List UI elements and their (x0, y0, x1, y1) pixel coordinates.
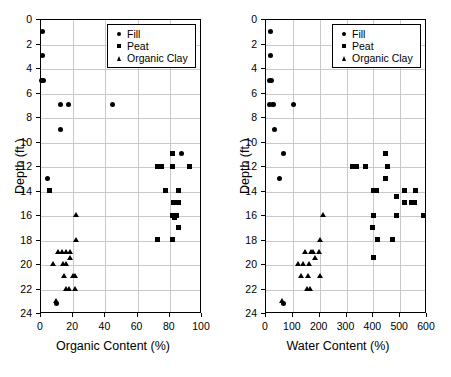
y-axis-tick (36, 44, 40, 45)
gridline-vertical (73, 20, 74, 312)
x-axis-tick (40, 313, 41, 317)
gridline-horizontal (266, 69, 425, 70)
x-axis-tick (137, 313, 138, 317)
square-marker-icon (338, 44, 350, 49)
y-axis-tick (261, 19, 265, 20)
x-axis-tick-label: 100 (181, 321, 221, 332)
y-axis-tick (261, 215, 265, 216)
y-axis-tick (36, 117, 40, 118)
x-axis-tick (426, 313, 427, 317)
y-axis-tick (261, 44, 265, 45)
gridline-horizontal (266, 94, 425, 95)
legend-item-fill[interactable]: Fill (338, 28, 414, 40)
y-axis-tick (261, 264, 265, 265)
legend-item-label: Fill (352, 29, 365, 40)
x-axis-tick (346, 313, 347, 317)
y-axis-tick (36, 240, 40, 241)
y-axis-tick-label: 6 (2, 88, 32, 99)
y-axis-tick (261, 166, 265, 167)
gridline-horizontal (41, 241, 200, 242)
gridline-horizontal (266, 118, 425, 119)
y-axis-tick-label: 22 (227, 284, 257, 295)
legend-item-label: Peat (127, 41, 149, 52)
gridline-horizontal (266, 192, 425, 193)
legend-item-label: Organic Clay (127, 53, 188, 64)
gridline-horizontal (41, 94, 200, 95)
y-axis-tick (36, 215, 40, 216)
triangle-glyph (342, 56, 346, 61)
water-content-vs-depth: 0246810121416182022240100200300400500600… (225, 0, 451, 377)
y-axis-tick-label: 20 (2, 259, 32, 270)
y-axis-tick (36, 166, 40, 167)
gridline-horizontal (266, 290, 425, 291)
y-axis-tick-label: 16 (227, 210, 257, 221)
y-axis-tick (261, 191, 265, 192)
x-axis-tick (319, 313, 320, 317)
y-axis-tick-label: 24 (2, 308, 32, 319)
y-axis-tick (36, 264, 40, 265)
y-axis-tick (36, 142, 40, 143)
legend: FillPeatOrganic Clay (107, 24, 196, 68)
circle-marker-icon (338, 32, 350, 37)
x-axis-tick (399, 313, 400, 317)
y-axis-tick-label: 18 (2, 235, 32, 246)
legend-item-peat[interactable]: Peat (338, 40, 414, 52)
y-axis-tick (261, 240, 265, 241)
y-axis-tick-label: 2 (227, 39, 257, 50)
gridline-horizontal (266, 241, 425, 242)
square-glyph (342, 44, 347, 49)
gridline-horizontal (266, 216, 425, 217)
circle-glyph (342, 32, 347, 37)
gridline-horizontal (41, 192, 200, 193)
y-axis-tick (36, 289, 40, 290)
legend: FillPeatOrganic Clay (332, 24, 421, 68)
circle-marker-icon (113, 32, 125, 37)
y-axis-tick-label: 8 (227, 112, 257, 123)
gridline-vertical (320, 20, 321, 312)
gridline-horizontal (41, 216, 200, 217)
y-axis-tick (261, 142, 265, 143)
y-axis-tick-label: 22 (2, 284, 32, 295)
gridline-vertical (293, 20, 294, 312)
x-axis-tick (169, 313, 170, 317)
triangle-glyph (117, 56, 121, 61)
x-axis-tick (292, 313, 293, 317)
y-axis-tick (36, 19, 40, 20)
y-axis-tick-label: 4 (227, 63, 257, 74)
legend-item-organic-clay[interactable]: Organic Clay (338, 52, 414, 64)
legend-item-peat[interactable]: Peat (113, 40, 189, 52)
y-axis-tick-label: 18 (227, 235, 257, 246)
triangle-marker-icon (113, 56, 125, 61)
x-axis-tick (265, 313, 266, 317)
x-axis-title: Organic Content (%) (0, 339, 226, 353)
gridline-horizontal (266, 265, 425, 266)
y-axis-title: Depth (ft.) (13, 138, 27, 194)
x-axis-tick (372, 313, 373, 317)
y-axis-tick (261, 68, 265, 69)
gridline-horizontal (41, 69, 200, 70)
gridline-horizontal (41, 167, 200, 168)
y-axis-title: Depth (ft.) (238, 138, 252, 194)
y-axis-tick (36, 93, 40, 94)
gridline-horizontal (266, 167, 425, 168)
y-axis-tick (261, 93, 265, 94)
triangle-marker-icon (338, 56, 350, 61)
y-axis-tick (261, 117, 265, 118)
square-marker-icon (113, 44, 125, 49)
y-axis-tick-label: 0 (227, 14, 257, 25)
gridline-horizontal (41, 265, 200, 266)
y-axis-tick-label: 20 (227, 259, 257, 270)
legend-item-organic-clay[interactable]: Organic Clay (113, 52, 189, 64)
x-axis-tick (104, 313, 105, 317)
y-axis-tick-label: 16 (2, 210, 32, 221)
scatter-plot-figure: 024681012141618202224020406080100Organic… (0, 0, 451, 377)
gridline-horizontal (41, 143, 200, 144)
y-axis-tick-label: 6 (227, 88, 257, 99)
y-axis-tick-label: 4 (2, 63, 32, 74)
legend-item-label: Fill (127, 29, 140, 40)
y-axis-tick-label: 8 (2, 112, 32, 123)
gridline-horizontal (266, 143, 425, 144)
legend-item-fill[interactable]: Fill (113, 28, 189, 40)
circle-glyph (117, 32, 122, 37)
y-axis-tick (261, 289, 265, 290)
